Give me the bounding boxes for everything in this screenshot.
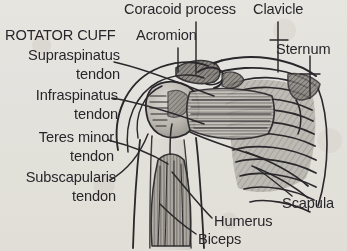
label-subscapularis-line2: tendon <box>0 189 116 204</box>
label-coracoid-process: Coracoid process <box>124 2 236 17</box>
label-humerus: Humerus <box>214 214 273 229</box>
label-biceps: Biceps <box>198 232 241 247</box>
label-infraspinatus-line2: tendon <box>0 107 118 122</box>
acromion-coracoid-group <box>176 60 244 88</box>
label-clavicle: Clavicle <box>253 2 303 17</box>
label-acromion: Acromion <box>136 28 197 43</box>
label-teres-minor-line2: tendon <box>0 149 114 164</box>
label-supraspinatus-line2: tendon <box>0 67 120 82</box>
label-teres-minor-line1: Teres minor <box>0 130 114 145</box>
label-supraspinatus-line1: Supraspinatus <box>0 48 120 63</box>
label-rotator-cuff-heading: ROTATOR CUFF <box>5 28 116 43</box>
shoulder-anatomy-figure: Coracoid process Clavicle ROTATOR CUFF A… <box>0 0 347 251</box>
label-scapula: Scapula <box>282 196 334 211</box>
label-infraspinatus-line1: Infraspinatus <box>0 88 118 103</box>
label-sternum: Sternum <box>276 42 330 57</box>
label-subscapularis-line1: Subscapularis <box>0 170 116 185</box>
